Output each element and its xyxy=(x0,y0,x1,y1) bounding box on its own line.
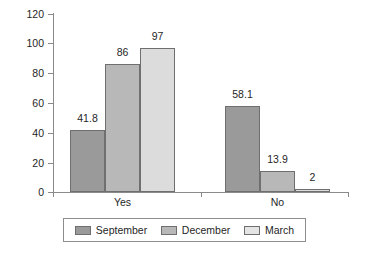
y-tick-mark-40 xyxy=(48,133,53,134)
legend-swatch-icon-september xyxy=(75,226,91,235)
y-tick-label-100: 100 xyxy=(0,38,44,49)
bar-value-yes-march: 97 xyxy=(135,31,180,42)
y-tick-label-0: 0 xyxy=(0,187,44,198)
chart-legend: September December March xyxy=(63,218,306,242)
legend-item-december[interactable]: December xyxy=(161,225,230,236)
y-tick-label-60: 60 xyxy=(0,98,44,109)
x-tick-start xyxy=(53,192,54,197)
legend-swatch-icon-december xyxy=(161,226,177,235)
bar-yes-december[interactable] xyxy=(105,64,140,192)
x-category-label-no: No xyxy=(255,196,300,208)
bar-value-no-september: 58.1 xyxy=(220,89,265,100)
y-tick-mark-120 xyxy=(48,14,53,15)
y-tick-label-20: 20 xyxy=(0,158,44,169)
legend-label-december: December xyxy=(182,225,230,236)
y-tick-mark-100 xyxy=(48,43,53,44)
bar-no-march[interactable] xyxy=(295,189,330,192)
y-tick-label-80: 80 xyxy=(0,68,44,79)
y-axis-line xyxy=(53,13,54,193)
x-category-label-yes: Yes xyxy=(100,196,145,208)
y-tick-label-40: 40 xyxy=(0,128,44,139)
legend-item-september[interactable]: September xyxy=(75,225,147,236)
y-tick-mark-60 xyxy=(48,103,53,104)
x-tick-end xyxy=(348,192,349,197)
y-tick-mark-80 xyxy=(48,73,53,74)
legend-label-september: September xyxy=(96,225,147,236)
bar-value-no-march: 2 xyxy=(290,172,335,183)
y-tick-mark-20 xyxy=(48,163,53,164)
bar-value-no-december: 13.9 xyxy=(255,154,300,165)
bar-yes-september[interactable] xyxy=(70,130,105,192)
x-tick-mid xyxy=(201,192,202,197)
bar-value-yes-september: 41.8 xyxy=(65,113,110,124)
legend-label-march: March xyxy=(265,225,294,236)
bar-value-yes-december: 86 xyxy=(100,47,145,58)
legend-item-march[interactable]: March xyxy=(244,225,294,236)
bar-chart: 120 100 80 60 40 20 0 41.8 86 97 Yes 58.… xyxy=(0,0,369,253)
legend-swatch-icon-march xyxy=(244,226,260,235)
bar-no-september[interactable] xyxy=(225,106,260,192)
y-tick-label-120: 120 xyxy=(0,9,44,20)
bar-yes-march[interactable] xyxy=(140,48,175,192)
